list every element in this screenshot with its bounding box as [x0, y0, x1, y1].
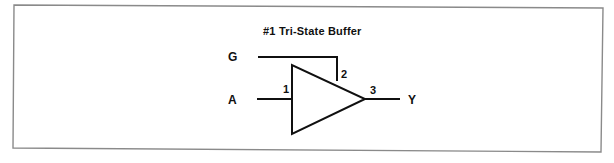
- pin-number-enable: 2: [341, 68, 347, 80]
- schematic-page: #1 Tri-State Buffer G A Y 1 2 3: [0, 0, 614, 163]
- pin-number-input: 1: [283, 83, 289, 95]
- buffer-triangle-symbol: [292, 65, 365, 134]
- port-label-output: Y: [408, 93, 416, 107]
- port-label-enable: G: [228, 50, 237, 64]
- port-label-input: A: [228, 93, 237, 107]
- pin-number-output: 3: [370, 84, 376, 96]
- wire-enable: [258, 57, 338, 81]
- tri-state-buffer-schematic: #1 Tri-State Buffer G A Y 1 2 3: [0, 0, 614, 163]
- diagram-title: #1 Tri-State Buffer: [263, 25, 362, 37]
